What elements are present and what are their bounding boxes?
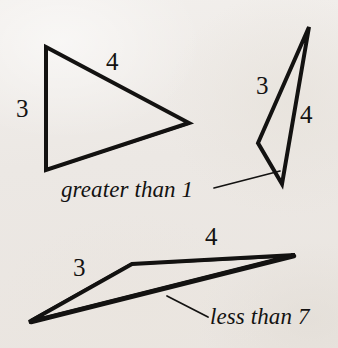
annotation-less-than-7: less than 7 [210,305,310,328]
side-length-label-triangle2-3: 3 [256,73,269,98]
annotation-greater-than-1: greater than 1 [61,178,193,201]
figure-canvas: 3 4 3 4 3 4 greater than 1 less than 7 [0,0,338,348]
leader-line-greater-than-1 [214,171,280,188]
side-length-label-triangle3-3: 3 [73,255,86,280]
triangle-diagram [0,0,338,348]
leader-line-less-than-7 [167,296,208,317]
triangle-top-left-edge-emphasis [50,124,188,169]
side-length-label-triangle1-4: 4 [106,49,119,74]
side-length-label-triangle3-4: 4 [205,224,218,249]
side-length-label-triangle1-3: 3 [16,96,29,121]
side-length-label-triangle2-4: 4 [300,102,313,127]
